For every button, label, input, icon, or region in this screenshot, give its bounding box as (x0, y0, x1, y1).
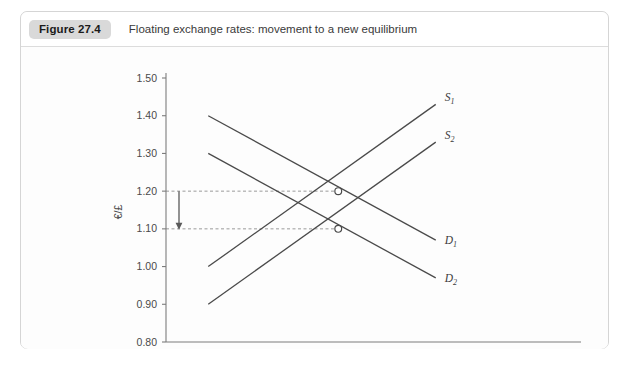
y-axis-title: €/£ (112, 205, 124, 220)
curve-d1 (208, 116, 436, 240)
figure-card: Figure 27.4 Floating exchange rates: mov… (20, 11, 609, 349)
curve-label-subscript: 1 (451, 97, 455, 106)
curve-label-subscript: 1 (453, 240, 457, 249)
equilibrium-marker-initial-equilibrium (335, 188, 342, 195)
y-tick-label: 1.50 (137, 72, 158, 84)
curve-label-d1: D1 (444, 234, 457, 249)
y-tick-label: 1.40 (137, 109, 158, 121)
curve-s2 (208, 142, 436, 304)
y-tick-label: 1.10 (137, 222, 158, 234)
figure-header: Figure 27.4 Floating exchange rates: mov… (21, 12, 608, 47)
y-tick-label: 0.90 (137, 298, 158, 310)
exchange-rate-chart: S1S2D1D21.501.401.301.201.101.000.900.80… (21, 47, 608, 349)
curve-label-d2: D2 (444, 272, 457, 287)
y-tick-label: 1.30 (137, 147, 158, 159)
plot-area: S1S2D1D21.501.401.301.201.101.000.900.80… (21, 47, 608, 349)
y-tick-label: 1.00 (137, 260, 158, 272)
figure-number-badge: Figure 27.4 (29, 20, 111, 39)
curve-d2 (208, 153, 436, 277)
figure-page: Figure 27.4 Floating exchange rates: mov… (0, 0, 631, 369)
y-tick-label: 0.80 (137, 336, 158, 348)
curve-label-s2: S2 (445, 129, 455, 144)
y-tick-label: 1.20 (137, 185, 158, 197)
depreciation-arrow-head (176, 223, 183, 230)
curve-s1 (208, 104, 436, 266)
figure-caption: Floating exchange rates: movement to a n… (129, 23, 417, 35)
curve-label-s1: S1 (445, 91, 455, 106)
curve-label-subscript: 2 (453, 278, 457, 287)
equilibrium-marker-new-equilibrium (335, 225, 342, 232)
chart-render-root: S1S2D1D21.501.401.301.201.101.000.900.80… (112, 72, 581, 349)
curve-label-subscript: 2 (451, 135, 455, 144)
